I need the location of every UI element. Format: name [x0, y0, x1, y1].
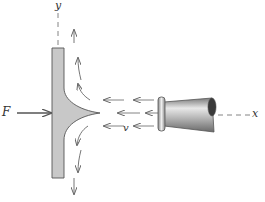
nozzle	[158, 97, 216, 132]
x-axis-label: x	[252, 108, 258, 119]
velocity-label: v	[123, 123, 129, 133]
flow-arrows-down	[74, 126, 88, 194]
y-axis-label: y	[55, 0, 61, 11]
jet-on-plate-diagram: y F v x	[0, 0, 265, 202]
diagram-canvas	[0, 0, 265, 202]
force-label: F	[2, 106, 10, 118]
velocity-arrows	[104, 100, 158, 126]
flow-arrows-up	[74, 30, 90, 100]
plate	[52, 48, 100, 178]
